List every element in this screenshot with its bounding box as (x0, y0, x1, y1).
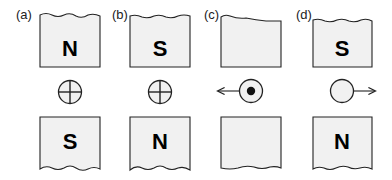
wire-unknown-current-icon (331, 80, 354, 103)
panel-a: (a) N S (16, 7, 100, 170)
pole-letter-bottom: N (334, 129, 350, 154)
magnet-top (221, 15, 281, 67)
magnetic-force-diagram: (a) N S (b) S N (c) (0, 0, 392, 180)
pole-letter-bottom: N (152, 129, 168, 154)
panel-label: (a) (16, 7, 32, 22)
panel-d: (d) S N (296, 7, 375, 170)
wire-out-of-page-icon (240, 80, 263, 103)
wire-into-page-icon (149, 81, 172, 104)
panel-label: (c) (204, 7, 219, 22)
magnet-bottom (221, 117, 281, 169)
panel-label: (b) (112, 7, 128, 22)
pole-letter-top: N (62, 36, 78, 61)
panel-label: (d) (296, 7, 312, 22)
pole-letter-top: S (335, 36, 350, 61)
pole-letter-bottom: S (63, 129, 78, 154)
pole-letter-top: S (153, 36, 168, 61)
wire-into-page-icon (59, 81, 82, 104)
panel-b: (b) S N (112, 7, 190, 170)
panel-c: (c) (204, 7, 281, 169)
